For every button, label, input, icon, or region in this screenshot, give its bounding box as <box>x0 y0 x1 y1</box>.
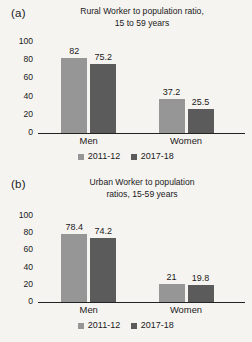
bar-women-2011-12: 37.2 <box>159 99 185 133</box>
bar-women-2011-12: 21 <box>159 284 185 302</box>
y-axis-tick-label: 60 <box>23 245 33 254</box>
legend-label: 2017-18 <box>141 152 174 161</box>
bar-value-label: 78.4 <box>65 223 83 232</box>
x-axis-line-b <box>38 302 245 303</box>
y-axis-tick-label: 100 <box>19 211 33 220</box>
y-axis-tick-label: 0 <box>28 128 33 137</box>
figure-container: (a) Rural Worker to population ratio, 15… <box>0 0 252 342</box>
legend-label: 2011-12 <box>88 152 120 161</box>
category-label-women: Women <box>170 136 202 145</box>
y-axis-tick-label: 0 <box>28 297 33 306</box>
chart-title-a-line2: 15 to 59 years <box>115 18 169 28</box>
chart-title-b-line1: Urban Worker to population <box>90 177 195 187</box>
panel-label-a: (a) <box>11 7 26 19</box>
bar-men-2017-18: 74.2 <box>90 238 116 302</box>
legend-swatch-icon <box>78 323 84 329</box>
chart-title-a-line1: Rural Worker to population ratio, <box>80 6 204 16</box>
y-axis-tick-label: 40 <box>23 91 33 100</box>
chart-panel-b: (b) Urban Worker to population ratios, 1… <box>0 171 252 342</box>
y-axis-b: 100806040200 <box>0 215 36 303</box>
bar-fill <box>61 58 87 133</box>
bar-fill <box>188 109 214 132</box>
y-axis-tick-label: 20 <box>23 280 33 289</box>
legend-item-2017-18: 2017-18 <box>131 152 174 161</box>
legend-swatch-icon <box>78 154 84 160</box>
bar-fill <box>188 285 214 302</box>
panel-label-b: (b) <box>11 178 26 190</box>
y-axis-a: 100806040200 <box>0 41 36 134</box>
bar-fill <box>159 99 185 133</box>
y-axis-tick-label: 100 <box>19 37 33 46</box>
y-axis-tick-label: 80 <box>23 228 33 237</box>
category-label-women: Women <box>170 305 202 314</box>
chart-title-b: Urban Worker to population ratios, 15-59… <box>44 177 240 200</box>
category-labels-b: MenWomen <box>38 305 245 319</box>
bar-value-label: 25.5 <box>192 98 210 107</box>
bar-fill <box>61 234 87 301</box>
category-label-men: Men <box>80 136 98 145</box>
legend-item-2017-18: 2017-18 <box>131 321 174 330</box>
bar-value-label: 82 <box>69 47 79 56</box>
bar-women-2017-18: 19.8 <box>188 285 214 302</box>
bar-value-label: 75.2 <box>94 53 112 62</box>
category-labels-a: MenWomen <box>38 136 245 150</box>
bar-value-label: 21 <box>166 273 176 282</box>
chart-title-a: Rural Worker to population ratio, 15 to … <box>44 6 240 29</box>
legend-label: 2011-12 <box>88 321 120 330</box>
category-label-men: Men <box>80 305 98 314</box>
legend-swatch-icon <box>131 154 137 160</box>
y-axis-tick-label: 20 <box>23 110 33 119</box>
bar-men-2011-12: 78.4 <box>61 234 87 301</box>
bar-fill <box>90 64 116 132</box>
bar-men-2011-12: 82 <box>61 58 87 133</box>
bar-fill <box>159 284 185 302</box>
bar-value-label: 19.8 <box>192 274 210 283</box>
bar-fill <box>90 238 116 302</box>
y-axis-tick-label: 80 <box>23 55 33 64</box>
plot-area-a: 8275.237.225.5 <box>38 41 245 134</box>
legend-label: 2017-18 <box>141 321 174 330</box>
legend-item-2011-12: 2011-12 <box>78 152 120 161</box>
plot-area-b: 78.474.22119.8 <box>38 215 245 303</box>
legend-item-2011-12: 2011-12 <box>78 321 120 330</box>
legend-swatch-icon <box>131 323 137 329</box>
x-axis-line-a <box>38 133 245 134</box>
bar-men-2017-18: 75.2 <box>90 64 116 132</box>
chart-panel-a: (a) Rural Worker to population ratio, 15… <box>0 0 252 171</box>
y-axis-tick-label: 40 <box>23 262 33 271</box>
bar-women-2017-18: 25.5 <box>188 109 214 132</box>
bar-value-label: 74.2 <box>94 227 112 236</box>
bar-value-label: 37.2 <box>163 88 181 97</box>
legend-b: 2011-12 2017-18 <box>0 321 252 330</box>
legend-a: 2011-12 2017-18 <box>0 152 252 161</box>
y-axis-tick-label: 60 <box>23 73 33 82</box>
chart-title-b-line2: ratios, 15-59 years <box>106 189 177 199</box>
